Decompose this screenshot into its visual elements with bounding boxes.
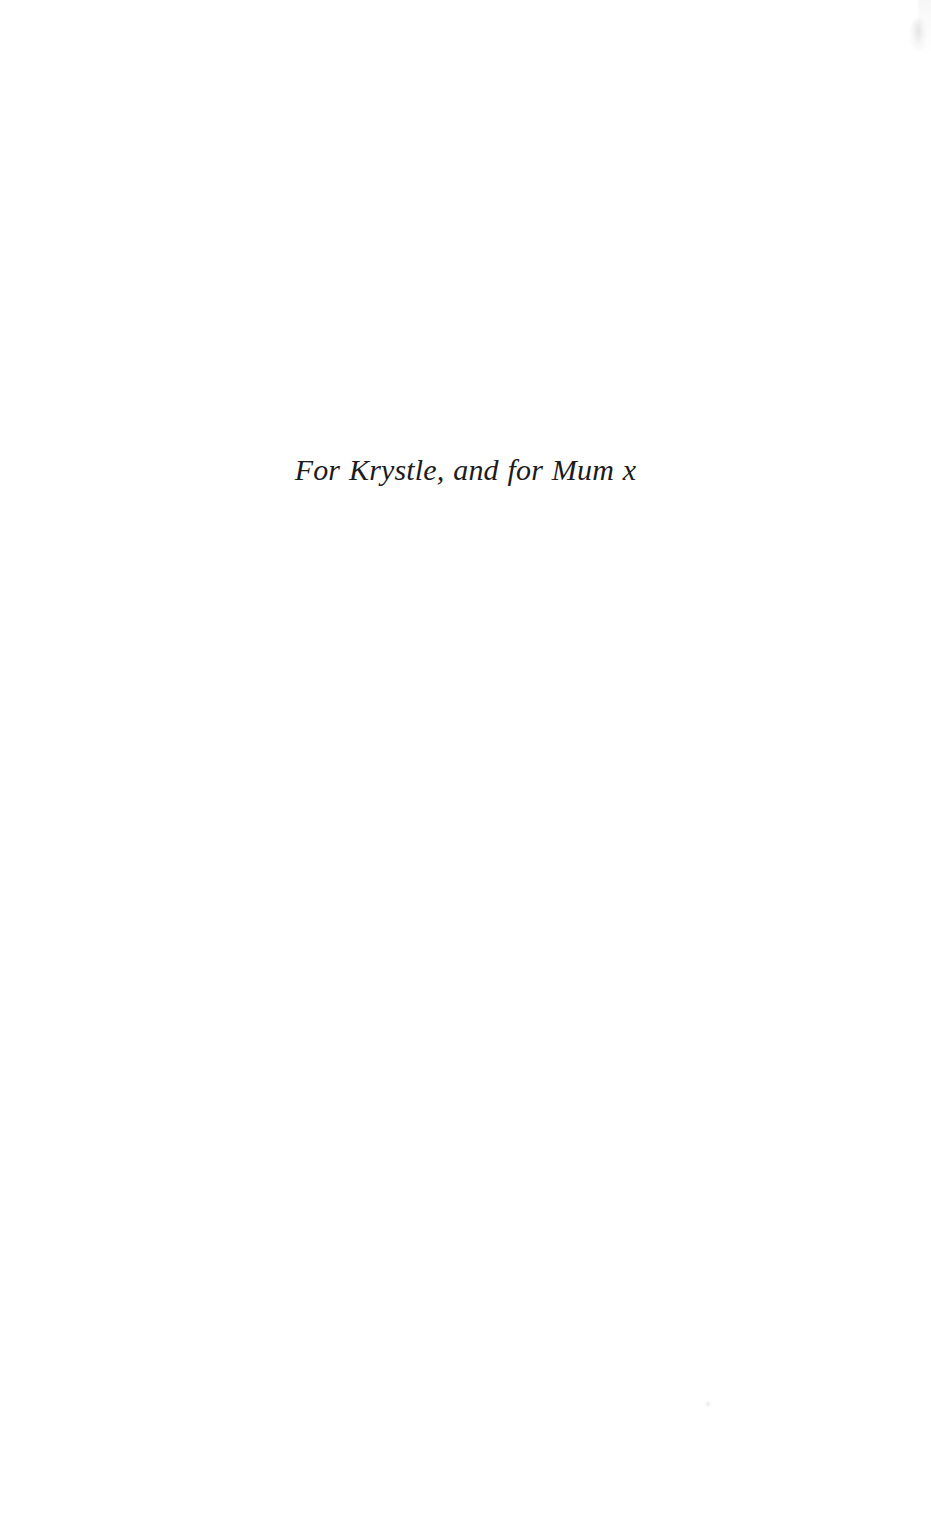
dedication-page: For Krystle, and for Mum x bbox=[0, 0, 931, 1531]
scan-edge-artifact bbox=[918, 0, 931, 62]
scan-dust-speck-artifact bbox=[704, 1400, 712, 1408]
dedication-block: For Krystle, and for Mum x bbox=[0, 0, 931, 1531]
dedication-text: For Krystle, and for Mum x bbox=[0, 451, 931, 489]
scan-corner-smudge-artifact bbox=[909, 18, 927, 52]
